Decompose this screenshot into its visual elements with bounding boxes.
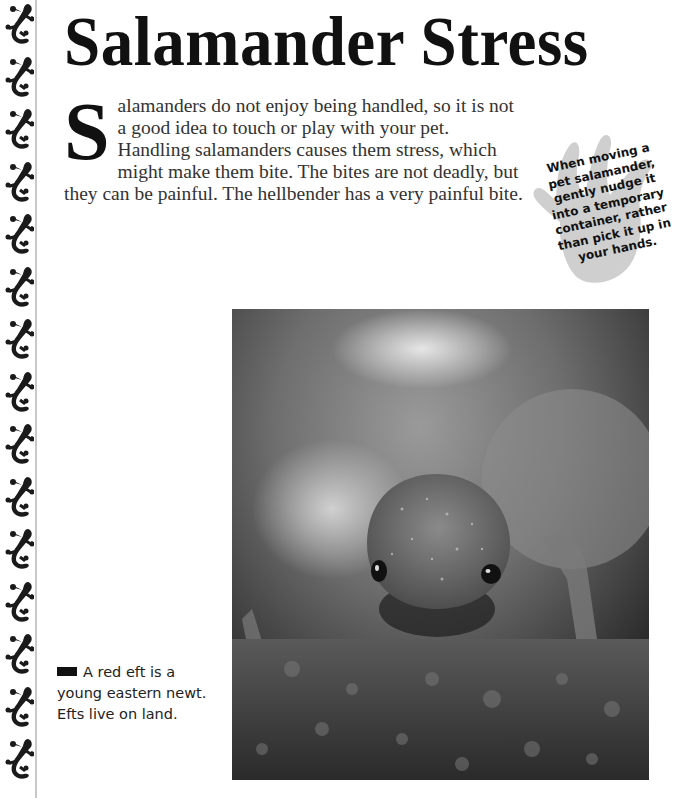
body-paragraph: S alamanders do not enjoy being handled,… xyxy=(64,95,524,205)
salamander-icon xyxy=(4,212,34,258)
salamander-icon xyxy=(4,737,34,783)
caption-text: A red eft is a young eastern newt. Efts … xyxy=(57,664,206,722)
tip-text: When moving a pet salamander, gently nud… xyxy=(538,139,676,270)
salamander-icon xyxy=(4,317,34,363)
drop-cap: S xyxy=(64,97,110,165)
salamander-icon xyxy=(4,527,34,573)
salamander-icon xyxy=(4,160,34,206)
photo-caption: A red eft is a young eastern newt. Efts … xyxy=(57,662,222,725)
salamander-icon xyxy=(4,632,34,678)
salamander-icon xyxy=(4,265,34,311)
decorative-salamander-strip xyxy=(0,0,35,798)
page-title: Salamander Stress xyxy=(64,2,589,82)
salamander-icon xyxy=(4,370,34,416)
salamander-photo-image xyxy=(232,309,649,780)
salamander-icon xyxy=(4,55,34,101)
red-eft-photo xyxy=(232,309,649,780)
caption-bullet-icon xyxy=(57,667,77,676)
salamander-icon xyxy=(4,422,34,468)
salamander-icon xyxy=(4,475,34,521)
salamander-icon xyxy=(4,107,34,153)
body-paragraph-text: alamanders do not enjoy being handled, s… xyxy=(64,95,523,204)
side-divider xyxy=(35,0,37,798)
salamander-icon xyxy=(4,2,34,48)
salamander-icon xyxy=(4,580,34,626)
salamander-icon xyxy=(4,685,34,731)
